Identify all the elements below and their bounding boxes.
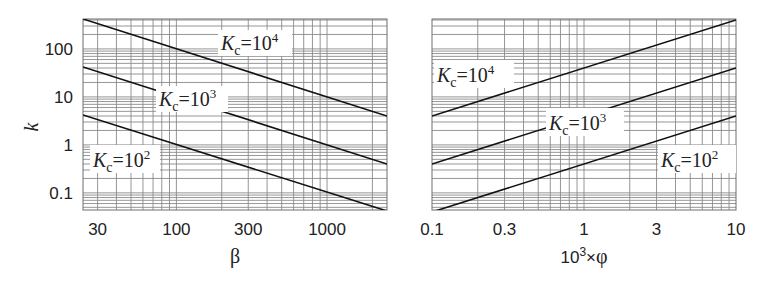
x-tick-label: 3 xyxy=(652,220,661,239)
x-tick-label: 100 xyxy=(162,220,190,239)
y-tick-label: 1 xyxy=(64,136,73,155)
x-tick-label: 1 xyxy=(579,220,588,239)
chart-panel-phi: Kc=104Kc=103Kc=1020.10.31310103×φ xyxy=(420,19,745,268)
x-tick-label: 10 xyxy=(727,220,746,239)
curve-label-2: Kc=102 xyxy=(92,147,150,175)
y-tick-label: 100 xyxy=(45,40,73,59)
x-axis-label: β xyxy=(230,245,240,268)
x-tick-label: 0.1 xyxy=(420,220,444,239)
dual-log-chart: Kc=104Kc=103Kc=1023010030010000.1110100β… xyxy=(0,0,759,294)
y-tick-label: 10 xyxy=(54,88,73,107)
y-tick-label: 0.1 xyxy=(49,184,73,203)
x-axis-label: 103×φ xyxy=(560,245,607,268)
x-tick-label: 0.3 xyxy=(493,220,517,239)
curve-label-1: Kc=103 xyxy=(158,86,216,114)
curve-label-2: Kc=102 xyxy=(660,147,718,175)
x-tick-label: 300 xyxy=(234,220,262,239)
curve-label-1: Kc=103 xyxy=(548,110,606,138)
x-tick-label: 1000 xyxy=(308,220,346,239)
x-tick-label: 30 xyxy=(88,220,107,239)
curve-label-0: Kc=104 xyxy=(436,62,495,90)
y-axis-label: k xyxy=(20,121,42,131)
chart-panel-beta: Kc=104Kc=103Kc=1023010030010000.1110100β… xyxy=(20,19,387,268)
curve-label-0: Kc=104 xyxy=(220,30,279,58)
